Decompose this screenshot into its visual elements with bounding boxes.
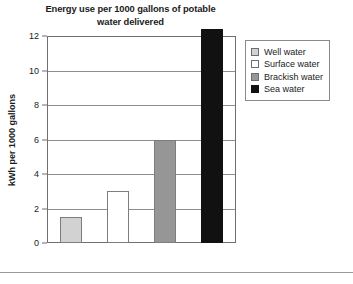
y-axis-tick-label-4: 4 <box>34 169 39 179</box>
y-axis-tick-label-8: 8 <box>34 100 39 110</box>
legend-item-well-water[interactable]: Well water <box>251 46 323 58</box>
chart-figure: Energy use per 1000 gallons of potable w… <box>0 0 353 284</box>
bar-well-water[interactable] <box>60 217 82 243</box>
legend-item-brackish-water[interactable]: Brackish water <box>251 71 323 83</box>
y-axis-tick-label-10: 10 <box>29 66 39 76</box>
legend-swatch-icon <box>251 60 259 68</box>
y-axis-tick-label-2: 2 <box>34 204 39 214</box>
caption-divider <box>0 272 353 273</box>
legend-label: Surface water <box>264 59 320 69</box>
chart-title: Energy use per 1000 gallons of potable w… <box>28 3 233 28</box>
y-axis-tick-label-0: 0 <box>34 238 39 248</box>
legend-swatch-icon <box>251 85 259 93</box>
y-axis-tick-label-12: 12 <box>29 31 39 41</box>
legend-swatch-icon <box>251 48 259 56</box>
legend-swatch-icon <box>251 73 259 81</box>
bar-slot-surface-water <box>94 36 141 243</box>
y-axis-tick-group: 121086420 <box>0 36 47 243</box>
legend-label: Brackish water <box>264 72 323 82</box>
bar-slot-brackish-water <box>142 36 189 243</box>
bar-surface-water[interactable] <box>107 191 129 243</box>
y-axis-tick-label-6: 6 <box>34 135 39 145</box>
chart-title-line-1: Energy use per 1000 gallons of potable <box>28 3 233 16</box>
legend-label: Sea water <box>264 84 305 94</box>
bar-series <box>47 36 236 243</box>
bar-sea-water[interactable] <box>201 29 223 243</box>
legend-item-sea-water[interactable]: Sea water <box>251 83 323 95</box>
chart-legend: Well waterSurface waterBrackish waterSea… <box>245 40 330 101</box>
bar-brackish-water[interactable] <box>154 140 176 244</box>
legend-item-surface-water[interactable]: Surface water <box>251 58 323 70</box>
chart-title-line-2: water delivered <box>28 16 233 29</box>
bar-slot-sea-water <box>189 36 236 243</box>
figure-caption <box>8 275 345 284</box>
bar-slot-well-water <box>47 36 94 243</box>
legend-label: Well water <box>264 47 306 57</box>
